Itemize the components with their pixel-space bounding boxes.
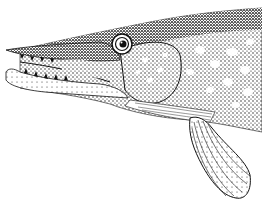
- pectoral-fin: [190, 117, 251, 198]
- eye-icon: [112, 34, 132, 54]
- pike-head-drawing: [0, 0, 262, 223]
- pike-illustration: [0, 0, 262, 223]
